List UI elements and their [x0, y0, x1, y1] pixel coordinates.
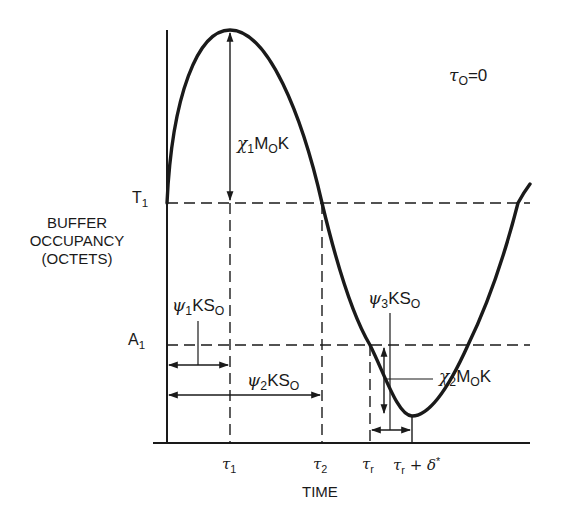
a1-level-label: A1	[128, 332, 145, 352]
tick-label-tau1: τ1	[222, 456, 236, 475]
psi3-kso-label: ψ3KSO	[368, 290, 420, 311]
x-axis-title: TIME	[302, 484, 338, 499]
occupancy-curve	[167, 30, 530, 416]
tau0-equals-zero-label: τO=0	[449, 67, 487, 88]
tick-label-taur: τr	[362, 456, 374, 475]
psi1-kso-label: ψ1KSO	[172, 297, 224, 318]
psi2-kso-label: ψ2KSO	[247, 372, 299, 393]
chi1-mok-label: χ1MOK	[237, 135, 289, 156]
chi2-mok-label: χ2MOK	[439, 368, 491, 389]
y-axis-title: BUFFER OCCUPANCY (OCTETS)	[22, 214, 132, 268]
t1-level-label: T1	[132, 190, 148, 210]
tick-label-tau2: τ2	[313, 456, 327, 475]
tick-label-taur-plus-delta: τr + δ*	[393, 456, 440, 475]
